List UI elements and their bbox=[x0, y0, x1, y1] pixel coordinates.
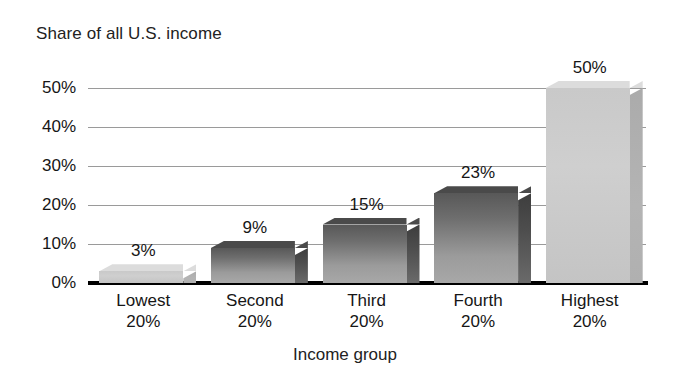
category-label-line1: Lowest bbox=[116, 291, 170, 310]
bar-front-face bbox=[323, 225, 407, 284]
bar-chart: Share of all U.S. income 0%10%20%30%40%5… bbox=[0, 0, 690, 380]
y-tick-label: 50% bbox=[18, 78, 76, 98]
category-label: Second20% bbox=[226, 290, 284, 333]
category-label-line2: 20% bbox=[116, 311, 170, 332]
y-tick-label: 20% bbox=[18, 195, 76, 215]
y-axis-ticks: 0%10%20%30%40%50% bbox=[18, 88, 76, 283]
bar[interactable] bbox=[434, 193, 518, 283]
y-tick-label: 0% bbox=[18, 273, 76, 293]
category-label-line1: Highest bbox=[561, 291, 619, 310]
category-label-line1: Second bbox=[226, 291, 284, 310]
category-label-line1: Third bbox=[347, 291, 386, 310]
bar-side-face bbox=[407, 225, 420, 284]
category-label: Third20% bbox=[347, 290, 386, 333]
bar-front-face bbox=[434, 193, 518, 283]
category-label-line2: 20% bbox=[561, 311, 619, 332]
bar-top-corner bbox=[630, 81, 643, 88]
y-tick-label: 30% bbox=[18, 156, 76, 176]
y-tick-label: 40% bbox=[18, 117, 76, 137]
bar-front-face bbox=[99, 271, 183, 283]
category-label: Highest20% bbox=[561, 290, 619, 333]
bar[interactable] bbox=[211, 248, 295, 283]
bar-top-face bbox=[546, 81, 630, 88]
category-label: Lowest20% bbox=[116, 290, 170, 333]
bar[interactable] bbox=[323, 225, 407, 284]
category-label: Fourth20% bbox=[454, 290, 503, 333]
x-axis-title: Income group bbox=[0, 345, 690, 365]
category-label-line2: 20% bbox=[226, 311, 284, 332]
category-label-line2: 20% bbox=[454, 311, 503, 332]
bar[interactable] bbox=[99, 271, 183, 283]
bar-top-face bbox=[323, 218, 407, 225]
category-label-line2: 20% bbox=[347, 311, 386, 332]
bar-front-face bbox=[211, 248, 295, 283]
bar-top-face bbox=[211, 241, 295, 248]
bar-value-label: 50% bbox=[573, 58, 607, 78]
category-label-line1: Fourth bbox=[454, 291, 503, 310]
chart-title: Share of all U.S. income bbox=[36, 24, 222, 44]
bar-top-face bbox=[434, 186, 518, 193]
bar-side-face bbox=[630, 88, 643, 283]
bar-front-face bbox=[546, 88, 630, 283]
bar-top-face bbox=[99, 264, 183, 271]
y-tick-label: 10% bbox=[18, 234, 76, 254]
bar-side-face bbox=[518, 193, 531, 283]
bar[interactable] bbox=[546, 88, 630, 283]
